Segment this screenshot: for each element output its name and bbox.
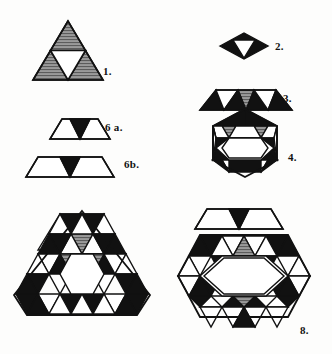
figure-6b bbox=[26, 157, 114, 177]
figure-3 bbox=[200, 90, 292, 110]
fig4-centre-inner bbox=[222, 138, 268, 158]
figure-1-label: 1. bbox=[103, 66, 112, 77]
figure-8 bbox=[178, 235, 310, 327]
figure-2-label: 2. bbox=[275, 41, 284, 52]
figure-6b-label: 6b. bbox=[124, 159, 139, 170]
figure-4-label: 4. bbox=[288, 152, 297, 163]
figure-7-label: 7. bbox=[128, 299, 137, 310]
figure-3-label: 3. bbox=[283, 93, 292, 104]
figure-8-label: 8. bbox=[300, 325, 309, 336]
figure-6a-label: 6 a. bbox=[105, 122, 123, 133]
tiling-figures-plate bbox=[0, 0, 332, 354]
figure-8-trapezoid bbox=[195, 209, 283, 229]
